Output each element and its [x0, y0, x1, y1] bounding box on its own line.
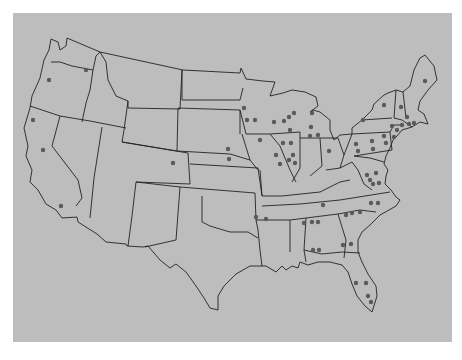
location-marker — [274, 153, 278, 157]
location-marker — [390, 124, 394, 128]
location-marker — [41, 148, 45, 152]
location-marker — [349, 242, 353, 246]
location-marker — [407, 122, 411, 126]
location-marker — [293, 161, 297, 165]
location-marker — [377, 181, 381, 185]
us-map — [0, 0, 462, 360]
location-marker — [369, 201, 373, 205]
location-marker — [382, 134, 386, 138]
location-marker — [321, 203, 325, 207]
location-marker — [344, 213, 348, 217]
location-marker — [370, 139, 374, 143]
location-marker — [371, 182, 375, 186]
location-marker — [302, 221, 306, 225]
us-outline — [24, 38, 437, 312]
location-marker — [287, 115, 291, 119]
location-marker — [281, 141, 285, 145]
location-marker — [405, 115, 409, 119]
location-marker — [354, 281, 358, 285]
location-marker — [392, 135, 396, 139]
location-marker — [245, 118, 249, 122]
location-marker — [376, 201, 380, 205]
location-marker — [382, 103, 386, 107]
location-marker — [327, 149, 331, 153]
location-marker — [291, 153, 295, 157]
location-marker — [171, 161, 175, 165]
location-marker — [226, 147, 230, 151]
location-marker — [316, 220, 320, 224]
location-marker — [366, 294, 370, 298]
location-marker — [227, 157, 231, 161]
location-marker — [368, 178, 372, 182]
location-marker — [272, 120, 276, 124]
location-marker — [47, 78, 51, 82]
location-marker — [317, 248, 321, 252]
location-marker — [310, 111, 314, 115]
marker-layer — [31, 68, 427, 304]
location-marker — [287, 158, 291, 162]
location-marker — [288, 128, 292, 132]
location-marker — [423, 79, 427, 83]
location-marker — [358, 210, 362, 214]
location-marker — [309, 125, 313, 129]
location-marker — [59, 204, 63, 208]
location-marker — [254, 215, 258, 219]
state-borders — [30, 52, 412, 266]
location-marker — [361, 118, 365, 122]
location-marker — [308, 134, 312, 138]
location-marker — [350, 211, 354, 215]
location-marker — [341, 243, 345, 247]
location-marker — [364, 281, 368, 285]
location-marker — [374, 171, 378, 175]
location-marker — [84, 68, 88, 72]
location-marker — [395, 128, 399, 132]
location-marker — [31, 118, 35, 122]
location-marker — [316, 133, 320, 137]
location-marker — [356, 149, 360, 153]
location-marker — [289, 141, 293, 145]
location-marker — [365, 173, 369, 177]
location-marker — [278, 162, 282, 166]
location-marker — [258, 138, 262, 142]
location-marker — [242, 106, 246, 110]
location-marker — [400, 123, 404, 127]
location-marker — [292, 111, 296, 115]
location-marker — [369, 300, 373, 304]
location-marker — [264, 217, 268, 221]
location-marker — [371, 147, 375, 151]
location-marker — [311, 248, 315, 252]
location-marker — [412, 121, 416, 125]
location-marker — [399, 105, 403, 109]
location-marker — [384, 141, 388, 145]
location-marker — [282, 119, 286, 123]
location-marker — [310, 220, 314, 224]
location-marker — [354, 142, 358, 146]
location-marker — [253, 118, 257, 122]
